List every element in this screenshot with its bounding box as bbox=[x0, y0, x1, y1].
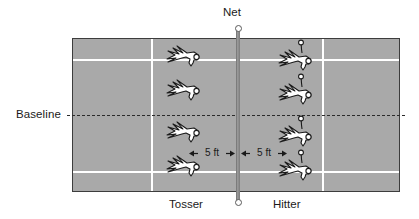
arrow-left-icon bbox=[241, 149, 250, 158]
hitter-label: Hitter bbox=[273, 198, 300, 210]
player-top-view-icon bbox=[166, 120, 202, 146]
player-top-view-icon bbox=[166, 78, 202, 104]
tennis-ball-icon bbox=[299, 150, 304, 155]
dimension-left-label: 5 ft bbox=[205, 148, 219, 158]
arrow-left-icon bbox=[189, 149, 198, 158]
hitter-figure-2 bbox=[278, 74, 312, 108]
tosser-figure-2 bbox=[166, 78, 200, 104]
net-label: Net bbox=[223, 6, 241, 18]
net-bar bbox=[236, 29, 240, 203]
tennis-ball-icon bbox=[299, 40, 304, 45]
tosser-figure-1 bbox=[166, 44, 200, 70]
tennis-ball-icon bbox=[299, 116, 304, 121]
tennis-ball-icon bbox=[299, 74, 304, 79]
tosser-label: Tosser bbox=[169, 198, 203, 210]
dimension-5ft-hitter-side: 5 ft bbox=[241, 146, 287, 160]
arrow-right-icon bbox=[226, 149, 235, 158]
hitter-figure-3 bbox=[278, 116, 312, 150]
dimension-right-label: 5 ft bbox=[257, 148, 271, 158]
player-top-view-icon bbox=[278, 40, 314, 74]
tosser-figure-3 bbox=[166, 120, 200, 146]
arrow-right-icon bbox=[278, 149, 287, 158]
dimension-5ft-tosser-side: 5 ft bbox=[189, 146, 235, 160]
player-top-view-icon bbox=[278, 74, 314, 108]
hitter-figure-1 bbox=[278, 40, 312, 74]
baseline-label: Baseline bbox=[16, 108, 61, 120]
tennis-drill-diagram: Baseline Net bbox=[0, 0, 419, 219]
player-top-view-icon bbox=[166, 44, 202, 70]
net-post-bottom-icon bbox=[235, 199, 242, 206]
player-top-view-icon bbox=[278, 116, 314, 150]
net-post-top-icon bbox=[235, 25, 242, 32]
